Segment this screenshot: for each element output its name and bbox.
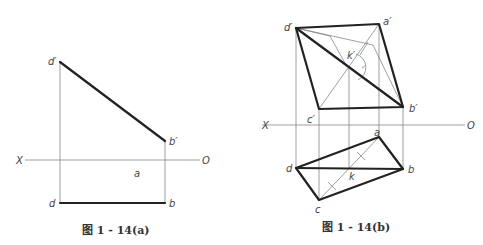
axis-label-o: O: [202, 155, 210, 166]
construction-line-5: [360, 42, 368, 55]
figure-b: X O d′ a′ b′ c′ k′ a b c d k 图 1 - 14(b): [261, 16, 475, 234]
point-label-a: a: [374, 127, 380, 138]
axis-label-x: X: [15, 155, 24, 166]
point-label-a: a: [134, 168, 140, 179]
angle-tick: [362, 66, 365, 68]
construction-line-4: [330, 36, 346, 65]
point-label-d-prime: d′: [48, 56, 57, 67]
point-label-d: d: [49, 198, 56, 209]
figure-a: X O d′ b′ a d b 图 1 - 14(a): [15, 56, 210, 237]
point-label-c-prime: c′: [307, 114, 315, 125]
point-label-a-prime: a′: [383, 16, 392, 27]
point-label-c: c: [315, 204, 321, 215]
point-label-d: d: [286, 163, 293, 174]
axis-label-o: O: [467, 120, 475, 131]
point-label-b: b: [408, 164, 414, 175]
point-label-b-prime: b′: [169, 136, 178, 147]
point-label-b-prime: b′: [409, 103, 418, 114]
point-label-b: b: [169, 198, 175, 209]
caption-b: 图 1 - 14(b): [322, 221, 390, 234]
caption-a: 图 1 - 14(a): [82, 224, 150, 237]
point-label-k-prime: k′: [347, 50, 356, 61]
projection-diagram: X O d′ b′ a d b 图 1 - 14(a): [0, 0, 483, 245]
point-label-d-prime: d′: [284, 22, 293, 33]
axis-label-x: X: [261, 120, 270, 131]
diagonal-d-b: [296, 168, 403, 169]
point-label-k: k: [349, 171, 356, 182]
line-d-prime-b-prime: [60, 62, 165, 141]
